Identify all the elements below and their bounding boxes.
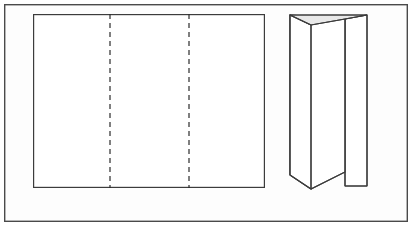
left-panel-folded-in	[290, 15, 311, 189]
diagram-canvas	[0, 0, 412, 229]
brochure-diagram-svg	[0, 0, 412, 229]
flat-sheet-outline	[34, 15, 265, 188]
back-panel-right	[345, 15, 367, 186]
folded-brochure-perspective	[290, 15, 367, 189]
unfolded-flat-sheet	[34, 14, 265, 188]
